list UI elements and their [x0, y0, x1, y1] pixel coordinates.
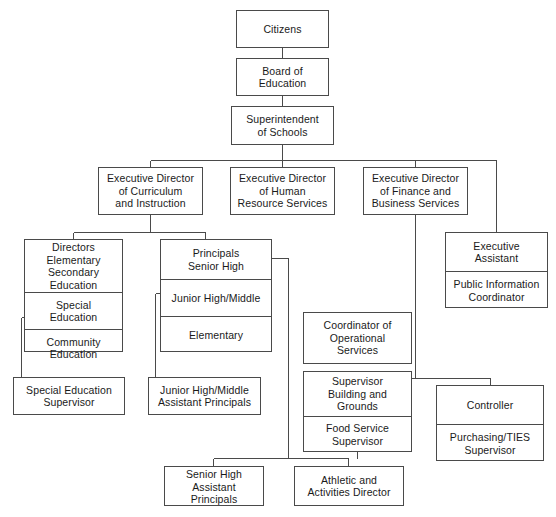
node-citizens-label: Citizens: [237, 11, 328, 47]
node-community-education-label: Community Education: [25, 329, 122, 366]
node-exec-dir-finance-label: Executive Director of Finance and Busine…: [364, 168, 467, 214]
node-junior-high-middle-label: Junior High/Middle: [161, 279, 271, 316]
node-athletic-activities-director[interactable]: Athletic and Activities Director: [294, 466, 404, 506]
node-athletic-activities-director-label: Athletic and Activities Director: [295, 467, 403, 505]
node-group-directors[interactable]: Directors Elementary Secondary Education…: [24, 239, 123, 352]
node-citizens[interactable]: Citizens: [236, 10, 329, 48]
node-group-controller[interactable]: Controller Purchasing/TIES Supervisor: [436, 385, 544, 461]
node-group-executive-assistant[interactable]: Executive Assistant Public Information C…: [445, 232, 548, 308]
node-supervisor-building-grounds-label: Supervisor Building and Grounds: [304, 372, 411, 416]
node-coordinator-operational-label: Coordinator of Operational Services: [304, 313, 411, 363]
node-junior-high-middle-assistant-principals[interactable]: Junior High/Middle Assistant Principals: [148, 377, 261, 415]
node-controller-label: Controller: [437, 386, 543, 424]
node-directors-elementary-label: Directors Elementary Secondary Education: [25, 240, 122, 292]
node-senior-high-assistant-principals[interactable]: Senior High Assistant Principals: [164, 466, 264, 506]
node-exec-dir-curriculum[interactable]: Executive Director of Curriculum and Ins…: [98, 167, 203, 215]
node-purchasing-ties-supervisor-label: Purchasing/TIES Supervisor: [437, 424, 543, 462]
node-board-of-education-label: Board of Education: [237, 59, 328, 95]
node-exec-dir-human-resource[interactable]: Executive Director of Human Resource Ser…: [230, 167, 335, 215]
node-food-service-supervisor-label: Food Service Supervisor: [304, 416, 411, 452]
node-elementary-label: Elementary: [161, 316, 271, 353]
node-group-principals[interactable]: Principals Senior High Junior High/Middl…: [160, 239, 272, 352]
node-exec-dir-human-resource-label: Executive Director of Human Resource Ser…: [231, 168, 334, 214]
node-exec-dir-curriculum-label: Executive Director of Curriculum and Ins…: [99, 168, 202, 214]
node-special-education-supervisor-label: Special Education Supervisor: [14, 378, 124, 414]
node-junior-high-middle-assistant-principals-label: Junior High/Middle Assistant Principals: [149, 378, 260, 414]
node-superintendent-label: Superintendent of Schools: [232, 107, 333, 144]
node-executive-assistant-label: Executive Assistant: [446, 233, 547, 271]
node-group-supervisors[interactable]: Supervisor Building and Grounds Food Ser…: [303, 371, 412, 452]
node-public-information-coordinator-label: Public Information Coordinator: [446, 271, 547, 309]
node-special-education-label: Special Education: [25, 292, 122, 329]
node-principals-senior-high-label: Principals Senior High: [161, 240, 271, 279]
org-chart: Citizens Board of Education Superintende…: [0, 0, 556, 517]
node-senior-high-assistant-principals-label: Senior High Assistant Principals: [165, 467, 263, 507]
node-special-education-supervisor[interactable]: Special Education Supervisor: [13, 377, 125, 415]
node-exec-dir-finance[interactable]: Executive Director of Finance and Busine…: [363, 167, 468, 215]
node-board-of-education[interactable]: Board of Education: [236, 58, 329, 96]
node-coordinator-operational[interactable]: Coordinator of Operational Services: [303, 312, 412, 364]
node-superintendent[interactable]: Superintendent of Schools: [231, 106, 334, 145]
